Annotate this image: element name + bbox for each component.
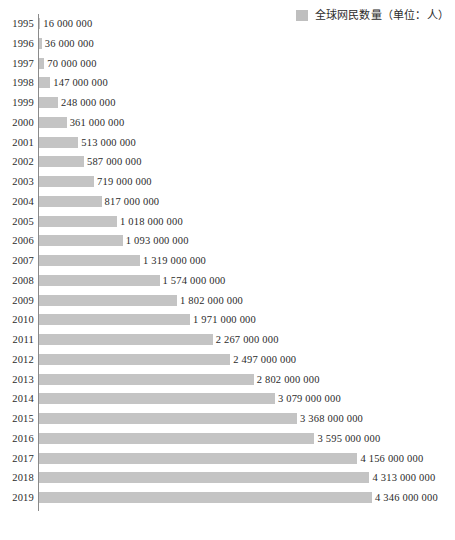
bar-segment [39, 255, 140, 266]
bar-row: 1999248 000 000 [0, 93, 455, 113]
chart-caption [0, 534, 455, 540]
bar-row-year-label: 1995 [0, 14, 34, 34]
bar-row-year-label: 2010 [0, 310, 34, 330]
bar-value-label: 587 000 000 [87, 152, 142, 172]
bar-row-year-label: 2014 [0, 389, 34, 409]
bar-rows-container: 199516 000 000199636 000 000199770 000 0… [0, 14, 455, 508]
bar-segment [39, 334, 213, 345]
bar-value-label: 1 802 000 000 [180, 291, 243, 311]
bar-segment [39, 275, 160, 286]
bar-segment [39, 176, 94, 187]
bar-row-year-label: 2004 [0, 192, 34, 212]
bar-row-year-label: 2008 [0, 271, 34, 291]
bar-value-label: 70 000 000 [47, 54, 96, 74]
bar-row-year-label: 2017 [0, 449, 34, 469]
bar-value-label: 719 000 000 [97, 172, 152, 192]
bar-value-label: 2 802 000 000 [257, 370, 320, 390]
bar-row: 2002587 000 000 [0, 152, 455, 172]
bar-row-year-label: 2005 [0, 212, 34, 232]
bar-segment [39, 295, 177, 306]
plot-area: 199516 000 000199636 000 000199770 000 0… [0, 14, 455, 514]
bar-value-label: 1 574 000 000 [163, 271, 226, 291]
bar-segment [39, 196, 102, 207]
bar-row: 199770 000 000 [0, 54, 455, 74]
bar-row-year-label: 2000 [0, 113, 34, 133]
bar-row: 20194 346 000 000 [0, 488, 455, 508]
bar-row-year-label: 1998 [0, 73, 34, 93]
bar-value-label: 3 079 000 000 [278, 389, 341, 409]
bar-value-label: 3 368 000 000 [300, 409, 363, 429]
bar-row-year-label: 2019 [0, 488, 34, 508]
bar-value-label: 817 000 000 [105, 192, 160, 212]
bar-row: 2001513 000 000 [0, 133, 455, 153]
bar-row: 20143 079 000 000 [0, 389, 455, 409]
bar-segment [39, 453, 357, 464]
bar-row: 20132 802 000 000 [0, 370, 455, 390]
bar-row-year-label: 1997 [0, 54, 34, 74]
bar-row-year-label: 1999 [0, 93, 34, 113]
bar-row-year-label: 2016 [0, 429, 34, 449]
bar-segment [39, 137, 78, 148]
bar-segment [39, 38, 42, 49]
bar-value-label: 1 971 000 000 [193, 310, 256, 330]
bar-row: 2003719 000 000 [0, 172, 455, 192]
bar-value-label: 1 319 000 000 [143, 251, 206, 271]
bar-value-label: 3 595 000 000 [317, 429, 380, 449]
bar-segment [39, 18, 40, 29]
bar-row: 20112 267 000 000 [0, 330, 455, 350]
bar-value-label: 4 156 000 000 [360, 449, 423, 469]
bar-segment [39, 216, 117, 227]
bar-row-year-label: 2002 [0, 152, 34, 172]
bar-segment [39, 58, 44, 69]
bar-value-label: 147 000 000 [53, 73, 108, 93]
bar-value-label: 36 000 000 [45, 34, 94, 54]
bar-row-year-label: 2006 [0, 231, 34, 251]
bar-value-label: 1 018 000 000 [120, 212, 183, 232]
bar-row-year-label: 2013 [0, 370, 34, 390]
bar-value-label: 513 000 000 [81, 133, 136, 153]
bar-row-year-label: 2001 [0, 133, 34, 153]
bar-row: 20101 971 000 000 [0, 310, 455, 330]
bar-segment [39, 97, 58, 108]
bar-row-year-label: 2003 [0, 172, 34, 192]
bar-segment [39, 235, 123, 246]
bar-row-year-label: 2012 [0, 350, 34, 370]
bar-value-label: 4 346 000 000 [375, 488, 438, 508]
bar-value-label: 16 000 000 [43, 14, 92, 34]
bar-segment [39, 472, 369, 483]
bar-row-year-label: 2011 [0, 330, 34, 350]
bar-row: 20122 497 000 000 [0, 350, 455, 370]
bar-segment [39, 354, 230, 365]
bar-segment [39, 433, 314, 444]
bar-row: 2000361 000 000 [0, 113, 455, 133]
bar-row: 20091 802 000 000 [0, 291, 455, 311]
bar-row: 20071 319 000 000 [0, 251, 455, 271]
bar-row-year-label: 2009 [0, 291, 34, 311]
bar-value-label: 248 000 000 [61, 93, 116, 113]
bar-row-year-label: 2018 [0, 468, 34, 488]
bar-segment [39, 393, 275, 404]
bar-segment [39, 492, 372, 503]
bar-value-label: 2 267 000 000 [216, 330, 279, 350]
bar-row: 199636 000 000 [0, 34, 455, 54]
bar-row: 20081 574 000 000 [0, 271, 455, 291]
bar-row: 20174 156 000 000 [0, 449, 455, 469]
bar-value-label: 361 000 000 [70, 113, 125, 133]
bar-value-label: 2 497 000 000 [233, 350, 296, 370]
bar-segment [39, 314, 190, 325]
bar-row-year-label: 1996 [0, 34, 34, 54]
bar-segment [39, 413, 297, 424]
bar-value-label: 4 313 000 000 [372, 468, 435, 488]
bar-row-year-label: 2007 [0, 251, 34, 271]
bar-value-label: 1 093 000 000 [126, 231, 189, 251]
bar-row: 20184 313 000 000 [0, 468, 455, 488]
bar-row: 2004817 000 000 [0, 192, 455, 212]
internet-users-bar-chart: 全球网民数量（单位：人） 199516 000 000199636 000 00… [0, 0, 455, 540]
bar-segment [39, 374, 254, 385]
bar-row-year-label: 2015 [0, 409, 34, 429]
bar-segment [39, 77, 50, 88]
bar-row: 20061 093 000 000 [0, 231, 455, 251]
bar-segment [39, 156, 84, 167]
bar-row: 20163 595 000 000 [0, 429, 455, 449]
bar-row: 199516 000 000 [0, 14, 455, 34]
